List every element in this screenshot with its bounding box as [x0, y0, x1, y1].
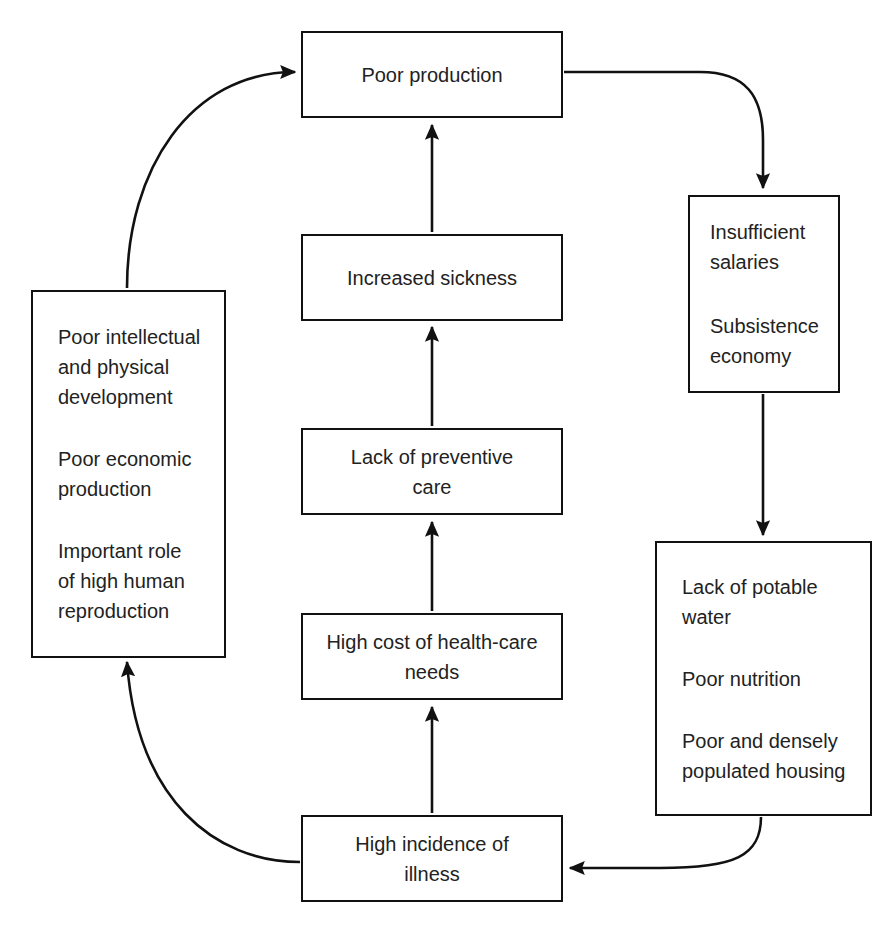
- edge-lack-potable-water-to-high-incidence-illness: [570, 817, 761, 868]
- node-high-incidence-illness-text: High incidence of illness: [355, 829, 508, 889]
- node-lack-potable-water-text-3: Poor and densely populated housing: [682, 726, 845, 786]
- node-lack-potable-water-text-1: Lack of potable water: [682, 572, 818, 632]
- edge-poor-development-to-poor-production: [127, 72, 295, 288]
- edge-high-incidence-illness-to-poor-development: [127, 662, 300, 862]
- node-lack-preventive-care-text: Lack of preventive care: [351, 442, 513, 502]
- node-high-incidence-illness[interactable]: High incidence of illness: [301, 815, 563, 902]
- node-poor-production-text: Poor production: [361, 60, 502, 90]
- node-lack-potable-water[interactable]: Lack of potable water Poor nutrition Poo…: [655, 541, 872, 816]
- node-lack-potable-water-text-2: Poor nutrition: [682, 664, 801, 694]
- edge-poor-production-to-insufficient-salaries: [564, 72, 763, 188]
- node-poor-development-text-3: Important role of high human reproductio…: [58, 536, 185, 626]
- node-poor-production[interactable]: Poor production: [301, 31, 563, 118]
- node-poor-development[interactable]: Poor intellectual and physical developme…: [31, 290, 226, 658]
- node-increased-sickness[interactable]: Increased sickness: [301, 234, 563, 321]
- node-insufficient-salaries-text-1: Insufficient salaries: [710, 217, 805, 277]
- node-insufficient-salaries[interactable]: Insufficient salaries Subsistence econom…: [688, 195, 840, 393]
- node-lack-preventive-care[interactable]: Lack of preventive care: [301, 428, 563, 515]
- flow-diagram: Poor production Increased sickness Lack …: [0, 0, 892, 927]
- node-high-cost-health-care[interactable]: High cost of health-care needs: [301, 613, 563, 700]
- node-poor-development-text-2: Poor economic production: [58, 444, 191, 504]
- node-increased-sickness-text: Increased sickness: [347, 263, 517, 293]
- node-high-cost-health-care-text: High cost of health-care needs: [326, 627, 537, 687]
- node-poor-development-text-1: Poor intellectual and physical developme…: [58, 322, 200, 412]
- node-insufficient-salaries-text-2: Subsistence economy: [710, 311, 819, 371]
